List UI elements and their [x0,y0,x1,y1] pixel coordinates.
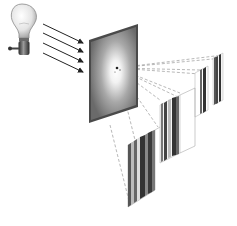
stripe-plane-4 [213,53,223,105]
light-bulb-icon [8,4,36,55]
stripe-plane-3 [195,66,208,117]
light-rays [43,24,83,72]
diagram-svg [0,0,237,226]
stripe-plane-2 [160,95,180,163]
stripe-plane-1 [128,130,155,207]
illuminated-screen [89,24,138,123]
diagram-canvas [0,0,237,226]
